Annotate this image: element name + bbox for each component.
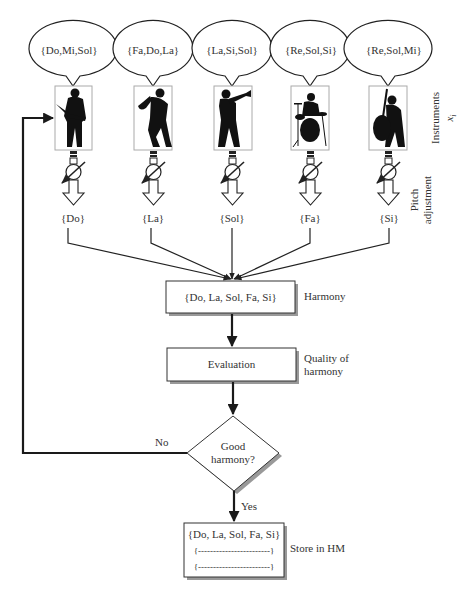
note-set-label: {Re,Sol,Mi} [366, 44, 422, 56]
speech-bubble: {Re,Sol,Si} [270, 20, 350, 86]
selected-note-label: {Fa} [299, 212, 321, 224]
down-arrow-icon [143, 180, 164, 205]
decision-label-line1: Good [221, 440, 246, 452]
yes-arrow: Yes [234, 491, 257, 521]
musician-column-trumpeter: {La,Si,Sol} {Sol} [192, 20, 272, 224]
no-label: No [155, 436, 169, 448]
quality-side-label-line2: harmony [304, 365, 344, 377]
svg-text:xi: xi [443, 114, 458, 122]
hm-row-1: {Do, La, Sol, Fa, Si} [188, 528, 280, 540]
down-arrow-icon [378, 180, 399, 205]
speech-bubble: {Do,Mi,Sol} [29, 20, 117, 86]
pitch-adjust-control [221, 151, 244, 205]
musician-column-saxophonist: {Fa,Do,La} {La} [113, 20, 193, 224]
decision-node: Good harmony? [187, 416, 282, 494]
note-set-label: {La,Si,Sol} [206, 44, 258, 56]
musician-column-guitarist: {Do,Mi,Sol} {Do} [29, 20, 117, 224]
quality-side-label-line1: Quality of [304, 352, 349, 364]
selected-note-label: {Sol} [219, 212, 244, 224]
harmony-side-label: Harmony [304, 290, 346, 302]
pitch-adjust-control [299, 151, 322, 205]
no-feedback-loop: No [23, 118, 187, 453]
harmony-node: {Do, La, Sol, Fa, Si} [166, 281, 298, 316]
speech-bubble: {Re,Sol,Mi} [344, 20, 432, 86]
harmony-search-diagram: {Do,Mi,Sol} {Do} {Fa,Do,La} [0, 0, 466, 597]
svg-text:Instruments: Instruments [429, 92, 441, 144]
pitch-adjust-control [142, 151, 165, 205]
converging-connectors [68, 228, 389, 279]
selected-note-label: {Si} [379, 212, 399, 224]
down-arrow-icon [300, 180, 321, 205]
yes-label: Yes [241, 500, 257, 512]
note-set-label: {Fa,Do,La} [127, 44, 179, 56]
down-arrow-icon [222, 180, 243, 205]
instruments-side-label: Instruments xi [429, 92, 458, 144]
evaluation-node: Evaluation [167, 348, 299, 384]
speech-bubble: {La,Si,Sol} [192, 20, 272, 86]
pitch-adjustment-side-label: Pitch adjustment [408, 176, 433, 224]
note-set-label: {Do,Mi,Sol} [40, 44, 97, 56]
evaluation-label: Evaluation [208, 358, 256, 370]
svg-text:Pitch: Pitch [408, 188, 420, 211]
harmony-vector-label: {Do, La, Sol, Fa, Si} [184, 291, 276, 303]
decision-label-line2: harmony? [211, 453, 255, 465]
musician-column-drummer: {Re,Sol,Si} {Fa} [270, 20, 350, 224]
hm-row-3: {------------------------} [194, 562, 275, 572]
hm-row-2: {------------------------} [194, 546, 275, 556]
note-set-label: {Re,Sol,Si} [285, 44, 337, 56]
selected-note-label: {Do} [61, 212, 85, 224]
selected-note-label: {La} [142, 212, 164, 224]
pitch-adjust-control [62, 151, 85, 205]
speech-bubble: {Fa,Do,La} [113, 20, 193, 86]
harmony-memory-node: {Do, La, Sol, Fa, Si} {-----------------… [184, 523, 287, 580]
pitch-adjust-control [377, 151, 400, 205]
svg-text:adjustment: adjustment [421, 176, 433, 224]
down-arrow-icon [63, 180, 84, 205]
store-in-hm-label: Store in HM [290, 542, 345, 554]
